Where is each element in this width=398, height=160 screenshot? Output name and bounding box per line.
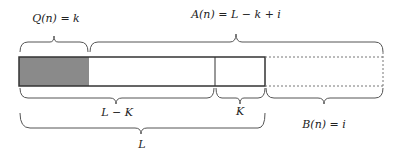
- brace-l-minus-k: [20, 88, 214, 104]
- brace-l: [20, 113, 265, 134]
- brace-a: [90, 34, 383, 52]
- label-l: L: [138, 138, 145, 151]
- label-b: B(n) = i: [302, 118, 345, 131]
- label-q: Q(n) = k: [32, 12, 80, 25]
- label-a: A(n) = L − k + i: [191, 8, 281, 21]
- brace-k: [216, 88, 265, 104]
- brace-b: [266, 88, 383, 104]
- label-k: K: [236, 105, 244, 118]
- diagram: Q(n) = k A(n) = L − k + i L − K K B(n) =…: [0, 0, 398, 160]
- segment-filled: [19, 57, 89, 86]
- brace-q: [20, 36, 88, 52]
- label-l-minus-k: L − K: [101, 106, 133, 119]
